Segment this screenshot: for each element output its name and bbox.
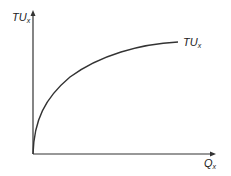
y-axis-label: TUx <box>12 11 31 24</box>
curve-label: TUx <box>183 36 202 49</box>
y-axis-arrow-icon <box>31 10 36 16</box>
tu-curve <box>33 42 178 154</box>
x-axis-arrow-icon <box>210 152 216 157</box>
x-axis-label: Qx <box>204 157 217 170</box>
chart: TUx TUx Qx <box>0 0 231 176</box>
